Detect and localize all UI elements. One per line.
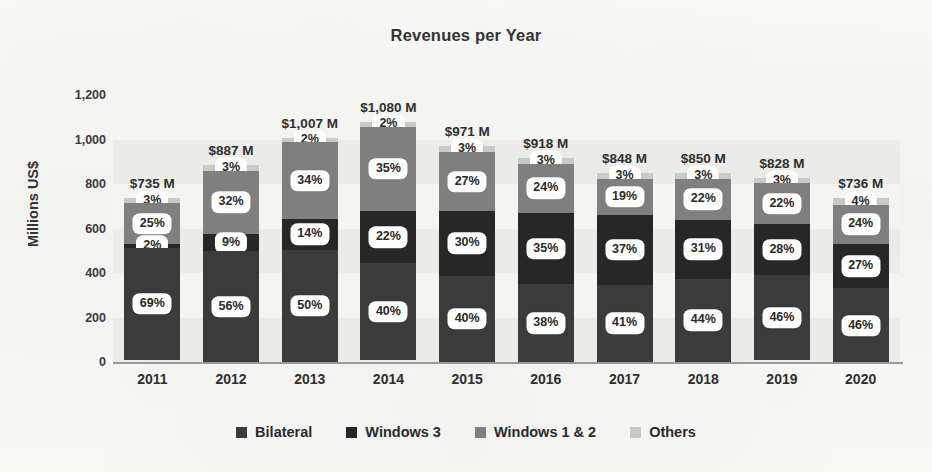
segment-percent-label: 9%	[215, 232, 247, 254]
bar-segment[interactable]: 40%	[439, 276, 495, 362]
bar-group[interactable]: 3%22%31%44%$850 M	[675, 173, 731, 362]
bar-segment[interactable]: 50%	[282, 250, 338, 362]
bar-segment[interactable]: 14%	[282, 219, 338, 250]
y-tick-label: 1,000	[44, 133, 106, 147]
segment-percent-label: 35%	[369, 158, 408, 180]
bar-segment[interactable]: 24%	[518, 164, 574, 213]
bar-segment[interactable]: 22%	[675, 179, 731, 221]
segment-percent-label: 25%	[133, 213, 172, 235]
legend-item[interactable]: Windows 3	[346, 424, 441, 440]
bar-group[interactable]: 2%35%22%40%$1,080 M	[360, 122, 416, 362]
segment-percent-label: 14%	[290, 224, 329, 246]
legend-item[interactable]: Windows 1 & 2	[475, 424, 596, 440]
bar-segment[interactable]: 46%	[833, 288, 889, 363]
bar-segment[interactable]: 30%	[439, 211, 495, 276]
bar-total-label: $828 M	[759, 156, 804, 171]
background-band	[113, 95, 900, 140]
segment-percent-label: 46%	[841, 315, 880, 337]
bar-segment[interactable]: 37%	[597, 215, 653, 285]
bar-stack: 4%24%27%46%	[833, 198, 889, 362]
bar-group[interactable]: 3%22%28%46%$828 M	[754, 178, 810, 362]
bar-segment[interactable]: 22%	[360, 211, 416, 264]
bar-stack: 2%34%14%50%	[282, 138, 338, 362]
bar-stack: 2%35%22%40%	[360, 122, 416, 362]
x-tick-label: 2019	[766, 371, 797, 387]
bar-segment[interactable]: 19%	[597, 179, 653, 215]
segment-percent-label: 22%	[684, 189, 723, 211]
bar-segment[interactable]: 27%	[439, 152, 495, 210]
bar-segment[interactable]: 27%	[833, 244, 889, 288]
bar-segment[interactable]: 69%	[124, 248, 180, 361]
bar-segment[interactable]: 40%	[360, 263, 416, 359]
segment-percent-label: 38%	[526, 312, 565, 334]
bar-total-label: $848 M	[602, 151, 647, 166]
y-axis-ticks: 02004006008001,0001,200	[36, 0, 106, 472]
y-tick-label: 600	[44, 222, 106, 236]
segment-percent-label: 24%	[526, 178, 565, 200]
bar-group[interactable]: 3%32%9%56%$887 M	[203, 165, 259, 362]
segment-percent-label: 69%	[133, 293, 172, 315]
bar-group[interactable]: 2%34%14%50%$1,007 M	[282, 138, 338, 362]
bar-segment[interactable]: 32%	[203, 171, 259, 234]
bar-stack: 3%24%35%38%	[518, 158, 574, 362]
chart-title: Revenues per Year	[0, 26, 932, 45]
bar-segment[interactable]: 31%	[675, 220, 731, 279]
segment-percent-label: 40%	[448, 308, 487, 330]
legend-item[interactable]: Bilateral	[236, 424, 312, 440]
bar-segment[interactable]: 28%	[754, 224, 810, 276]
legend-swatch-icon	[346, 427, 357, 438]
x-tick-label: 2017	[609, 371, 640, 387]
chart-legend: BilateralWindows 3Windows 1 & 2Others	[0, 424, 932, 440]
segment-percent-label: 28%	[762, 239, 801, 261]
y-tick-label: 0	[44, 355, 106, 369]
bar-group[interactable]: 3%24%35%38%$918 M	[518, 158, 574, 362]
segment-percent-label: 22%	[762, 193, 801, 215]
bar-segment[interactable]: 56%	[203, 251, 259, 362]
bar-segment[interactable]: 34%	[282, 142, 338, 218]
segment-percent-label: 44%	[684, 310, 723, 332]
x-tick-label: 2018	[688, 371, 719, 387]
legend-label: Windows 3	[365, 424, 441, 440]
bar-segment[interactable]: 9%	[203, 234, 259, 252]
y-tick-label: 800	[44, 177, 106, 191]
x-tick-label: 2015	[452, 371, 483, 387]
segment-percent-label: 40%	[369, 301, 408, 323]
chart-page: Revenues per Year 3%25%2%69%$735 M3%32%9…	[0, 0, 932, 472]
legend-item[interactable]: Others	[630, 424, 696, 440]
legend-label: Bilateral	[255, 424, 312, 440]
x-tick-label: 2014	[373, 371, 404, 387]
y-axis-title: Millions US$	[25, 109, 41, 299]
segment-percent-label: 46%	[762, 307, 801, 329]
segment-percent-label: 35%	[526, 238, 565, 260]
bar-segment[interactable]: 44%	[675, 279, 731, 362]
y-tick-label: 400	[44, 266, 106, 280]
bar-group[interactable]: 4%24%27%46%$736 M	[833, 198, 889, 362]
segment-percent-label: 50%	[290, 295, 329, 317]
plot-area: 3%25%2%69%$735 M3%32%9%56%$887 M2%34%14%…	[113, 95, 900, 362]
bar-segment[interactable]: 35%	[518, 213, 574, 284]
bar-segment[interactable]: 38%	[518, 284, 574, 362]
bar-total-label: $1,007 M	[282, 116, 338, 131]
bar-total-label: $850 M	[681, 151, 726, 166]
bar-segment[interactable]: 24%	[833, 205, 889, 244]
y-tick-label: 200	[44, 311, 106, 325]
segment-percent-label: 32%	[212, 191, 251, 213]
bar-total-label: $918 M	[523, 136, 568, 151]
segment-percent-label: 41%	[605, 313, 644, 335]
bar-segment[interactable]: 46%	[754, 275, 810, 360]
bar-group[interactable]: 3%25%2%69%$735 M	[124, 198, 180, 362]
legend-swatch-icon	[630, 427, 641, 438]
x-tick-label: 2012	[215, 371, 246, 387]
bar-total-label: $736 M	[838, 176, 883, 191]
bar-segment[interactable]: 22%	[754, 183, 810, 224]
bar-group[interactable]: 3%19%37%41%$848 M	[597, 173, 653, 362]
bar-group[interactable]: 3%27%30%40%$971 M	[439, 146, 495, 362]
x-tick-label: 2020	[845, 371, 876, 387]
legend-label: Others	[649, 424, 696, 440]
bar-segment[interactable]: 35%	[360, 127, 416, 211]
bar-segment[interactable]: 41%	[597, 285, 653, 362]
bar-stack: 3%32%9%56%	[203, 165, 259, 362]
segment-percent-label: 30%	[448, 232, 487, 254]
bar-total-label: $971 M	[445, 124, 490, 139]
x-tick-label: 2013	[294, 371, 325, 387]
